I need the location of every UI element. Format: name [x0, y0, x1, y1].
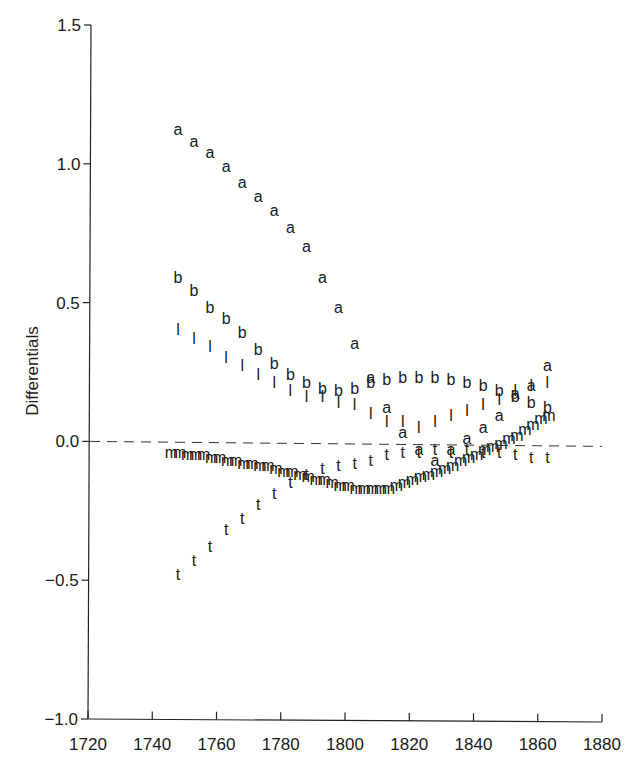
marker-t: t	[385, 446, 390, 463]
marker-a: a	[206, 144, 215, 161]
marker-t: t	[352, 455, 357, 472]
marker-a: a	[318, 269, 327, 286]
x-tick-label: 1880	[583, 735, 621, 754]
marker-t: t	[208, 538, 213, 555]
x-tick-label: 1800	[326, 735, 364, 754]
marker-b: b	[173, 269, 182, 286]
marker-b: b	[350, 380, 359, 397]
marker-t: t	[401, 444, 406, 461]
marker-b: b	[447, 371, 456, 388]
marker-a: a	[286, 219, 295, 236]
axes	[88, 25, 602, 722]
y-axis-line	[88, 25, 91, 719]
marker-l: l	[289, 382, 293, 399]
marker-b: b	[366, 374, 375, 391]
marker-a: a	[270, 202, 279, 219]
x-tick-label: 1720	[69, 735, 107, 754]
marker-l: l	[192, 330, 196, 347]
marker-l: l	[240, 357, 244, 374]
y-tick-label: −1.0	[44, 710, 78, 729]
marker-l: l	[224, 349, 228, 366]
marker-a: a	[190, 133, 199, 150]
marker-b: b	[479, 377, 488, 394]
marker-t: t	[176, 566, 181, 583]
y-tick-label: 1.5	[57, 16, 81, 35]
x-axis-ticks: 172017401760178018001820184018601880	[69, 711, 621, 754]
y-tick-label: 0.0	[56, 432, 80, 451]
marker-l: l	[530, 377, 534, 394]
marker-a: a	[479, 419, 488, 436]
marker-b: b	[398, 369, 407, 386]
marker-t: t	[192, 552, 197, 569]
marker-b: b	[463, 374, 472, 391]
marker-b: b	[254, 341, 263, 358]
marker-b: b	[270, 355, 279, 372]
marker-a: a	[222, 158, 231, 175]
x-tick-label: 1760	[198, 735, 236, 754]
x-tick-label: 1740	[133, 735, 171, 754]
x-tick-label: 1820	[390, 735, 428, 754]
marker-t: t	[368, 452, 373, 469]
marker-l: l	[273, 374, 277, 391]
marker-t: t	[256, 496, 261, 513]
marker-l: l	[176, 321, 180, 338]
marker-a: a	[543, 357, 552, 374]
marker-l: l	[497, 391, 501, 408]
marker-t: t	[513, 446, 518, 463]
data-markers: aaaaaaaaaaaaaaaaaaaaaaaabbbbbbbbbbbbbbbb…	[165, 121, 556, 582]
marker-l: l	[433, 413, 437, 430]
marker-l: l	[337, 394, 341, 411]
marker-a: a	[350, 335, 359, 352]
marker-l: l	[369, 405, 373, 422]
marker-a: a	[334, 299, 343, 316]
marker-b: b	[222, 310, 231, 327]
marker-t: t	[545, 449, 550, 466]
marker-l: l	[256, 366, 260, 383]
marker-t: t	[240, 510, 245, 527]
series-b: bbbbbbbbbbbbbbbbbbbbbbbb	[173, 269, 551, 416]
marker-b: b	[382, 371, 391, 388]
marker-l: l	[513, 382, 517, 399]
marker-l: l	[305, 388, 309, 405]
marker-a: a	[254, 188, 263, 205]
marker-l: l	[208, 338, 212, 355]
y-axis-title: Differentials	[23, 326, 42, 415]
marker-a: a	[302, 238, 311, 255]
y-tick-label: −0.5	[45, 571, 79, 590]
series-a: aaaaaaaaaaaaaaaaaaaaaaaa	[173, 121, 551, 468]
marker-l: l	[385, 413, 389, 430]
marker-l: l	[546, 374, 550, 391]
marker-b: b	[414, 369, 423, 386]
x-tick-label: 1860	[519, 735, 557, 754]
marker-b: b	[190, 282, 199, 299]
marker-t: t	[433, 441, 438, 458]
y-tick-label: 0.5	[56, 294, 80, 313]
marker-t: t	[336, 457, 341, 474]
x-tick-label: 1780	[262, 735, 300, 754]
marker-l: l	[321, 388, 325, 405]
marker-b: b	[206, 299, 215, 316]
marker-t: t	[224, 521, 229, 538]
marker-a: a	[238, 174, 247, 191]
marker-l: l	[449, 407, 453, 424]
marker-t: t	[272, 485, 277, 502]
marker-l: l	[417, 419, 421, 436]
differentials-chart: 172017401760178018001820184018601880 −1.…	[0, 0, 640, 762]
marker-b: b	[430, 369, 439, 386]
marker-b: b	[527, 394, 536, 411]
x-tick-label: 1840	[455, 735, 493, 754]
marker-a: a	[173, 121, 182, 138]
marker-b: b	[238, 324, 247, 341]
marker-m: m	[542, 407, 555, 424]
marker-t: t	[529, 449, 534, 466]
marker-a: a	[495, 407, 504, 424]
y-axis-ticks: −1.0−0.50.00.51.01.5	[44, 16, 91, 729]
marker-l: l	[401, 413, 405, 430]
marker-l: l	[465, 402, 469, 419]
marker-b: b	[286, 366, 295, 383]
marker-l: l	[481, 396, 485, 413]
series-l: llllllllllllllllllllllll	[176, 321, 549, 435]
marker-l: l	[353, 396, 357, 413]
y-tick-label: 1.0	[57, 155, 81, 174]
marker-t: t	[417, 444, 422, 461]
